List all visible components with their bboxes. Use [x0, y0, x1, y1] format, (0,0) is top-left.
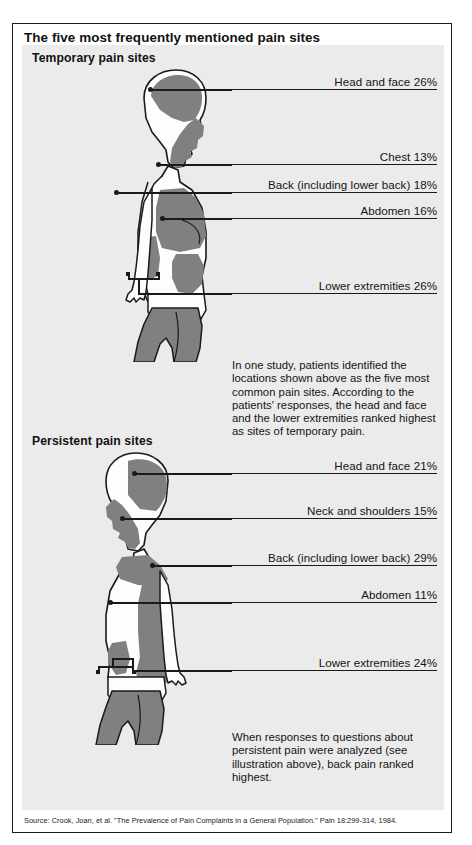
leader-line-lower-extremities-2: [132, 670, 232, 672]
callout-label: Chest 13%: [380, 150, 437, 163]
leader-bracket-lower-extremities: [128, 278, 160, 280]
leader-dot-chest: [156, 162, 161, 167]
callout-persistent-4: Lower extremities 24%: [232, 654, 437, 671]
note-persistent: When responses to questions about persis…: [232, 731, 437, 784]
leader-bracket-left-tick-2: [112, 658, 114, 666]
callout-label: Head and face 21%: [334, 459, 437, 472]
callout-temporary-2: Back (including lower back) 18%: [232, 176, 437, 193]
callout-temporary-1: Chest 13%: [232, 148, 437, 165]
callout-label: Abdomen 11%: [361, 588, 437, 601]
callout-rule: [232, 218, 437, 219]
leader-line-chest: [158, 164, 232, 166]
leader-line-back: [116, 192, 232, 194]
callout-label: Abdomen 16%: [360, 204, 437, 217]
callout-label: Lower extremities 24%: [319, 656, 437, 669]
callout-rule: [232, 518, 437, 519]
note-temporary: In one study, patients identified the lo…: [232, 359, 437, 439]
callout-rule: [232, 192, 437, 193]
leader-line-lower-extremities: [138, 293, 232, 295]
callout-persistent-1: Neck and shoulders 15%: [232, 502, 437, 519]
callout-persistent-3: Abdomen 11%: [232, 586, 437, 603]
leader-line-neck-shoulders: [122, 518, 232, 520]
leader-dot-abdomen: [160, 216, 165, 221]
callout-label: Lower extremities 26%: [319, 279, 437, 292]
leader-line-back-2: [152, 565, 232, 567]
leader-cap-right: [156, 272, 160, 276]
callout-label: Back (including lower back) 18%: [268, 178, 437, 191]
callout-rule: [232, 473, 437, 474]
leader-stem-lower-extremities: [138, 278, 140, 294]
callout-label: Back (including lower back) 29%: [268, 551, 437, 564]
callout-persistent-2: Back (including lower back) 29%: [232, 549, 437, 566]
leader-cap-left: [126, 272, 130, 276]
leader-cap-left-2: [96, 670, 100, 674]
leader-dot-back-2: [150, 563, 155, 568]
leader-dot-neck-shoulders: [120, 516, 125, 521]
callout-rule: [232, 670, 437, 671]
source-citation: Source: Crook, Joan, et al. "The Prevale…: [24, 816, 397, 825]
leader-dot-head-face-2: [132, 471, 137, 476]
callout-rule: [232, 602, 437, 603]
leader-line-abdomen: [162, 218, 232, 220]
callout-temporary-3: Abdomen 16%: [232, 202, 437, 219]
callout-rule: [232, 293, 437, 294]
persistent-pain-body-diagram: [56, 445, 256, 745]
callout-persistent-0: Head and face 21%: [232, 457, 437, 474]
leader-dot-head-face: [148, 87, 153, 92]
callout-temporary-0: Head and face 26%: [232, 73, 437, 90]
pain-sites-infographic: The five most frequently mentioned pain …: [0, 0, 472, 845]
leader-dot-back: [114, 190, 119, 195]
callout-rule: [232, 565, 437, 566]
callout-temporary-4: Lower extremities 26%: [232, 277, 437, 294]
page-title: The five most frequently mentioned pain …: [24, 30, 320, 45]
callout-label: Neck and shoulders 15%: [307, 504, 437, 517]
leader-line-head-face-2: [134, 473, 232, 475]
leader-line-head-face: [150, 89, 232, 91]
leader-bracket-lower-extremities-2: [112, 658, 134, 660]
callout-rule: [232, 164, 437, 165]
leader-bracket-lower-2: [98, 666, 134, 668]
temporary-pain-body-diagram: [56, 62, 256, 362]
leader-dot-abdomen-2: [108, 600, 113, 605]
leader-line-abdomen-2: [110, 602, 232, 604]
leader-cap-right-2: [132, 670, 136, 674]
callout-label: Head and face 26%: [334, 75, 437, 88]
callout-rule: [232, 89, 437, 90]
